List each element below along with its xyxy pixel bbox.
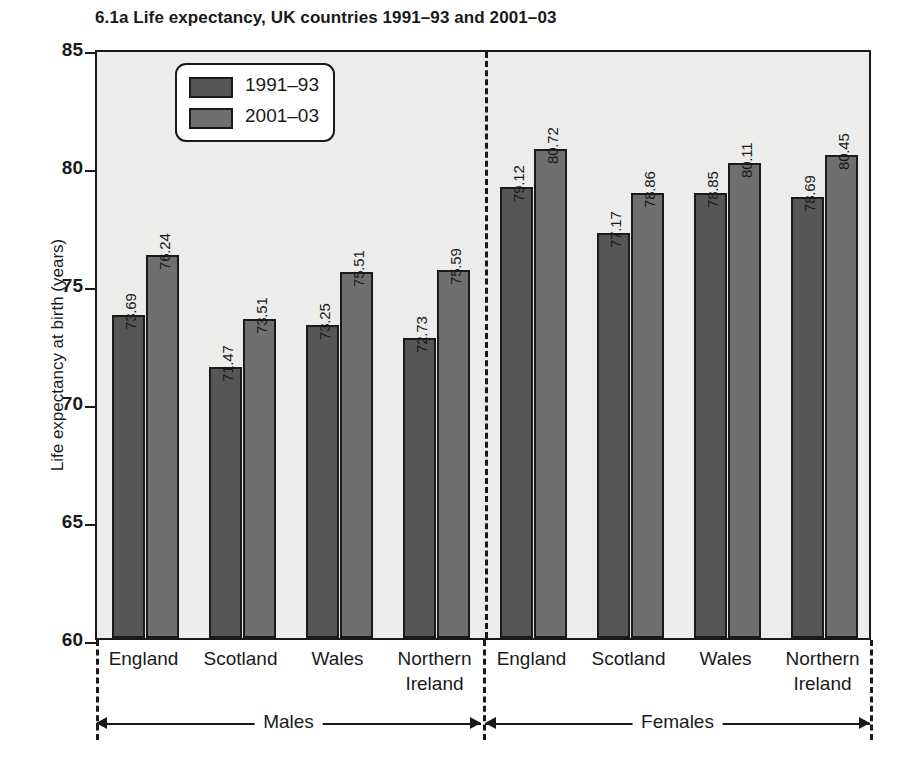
y-axis-title: Life expectancy at birth (years) <box>48 145 68 565</box>
bar-value-label: 80.11 <box>738 143 755 178</box>
legend-label: 2001–03 <box>245 105 319 127</box>
category-label-line: Ireland <box>743 671 902 696</box>
arrow-head-left-icon <box>96 717 107 729</box>
bar-value-label: 71.47 <box>219 346 236 383</box>
bar-value-label: 78.69 <box>801 175 818 212</box>
bar <box>791 197 824 638</box>
y-axis-tick-label: 85 <box>23 39 83 61</box>
bar <box>631 193 664 638</box>
y-axis-tick <box>85 52 97 54</box>
category-label-line: Ireland <box>355 671 515 696</box>
bar <box>146 255 179 638</box>
bar-value-label: 73.69 <box>122 293 139 330</box>
bar-value-label: 79.12 <box>510 165 527 202</box>
bar <box>112 315 145 638</box>
legend-color-swatch <box>189 108 233 129</box>
group-span-arrow: Females <box>485 714 870 734</box>
category-label-line: Northern <box>743 646 902 671</box>
bar-value-label: 78.85 <box>704 172 721 209</box>
y-axis-tick-label: 75 <box>23 275 83 297</box>
y-axis-tick <box>85 524 97 526</box>
y-axis-tick <box>85 406 97 408</box>
legend-label: 1991–93 <box>245 74 319 96</box>
bar <box>597 233 630 638</box>
bar-value-label: 80.45 <box>835 134 852 171</box>
group-divider-line <box>485 52 488 638</box>
y-axis-tick-label: 65 <box>23 511 83 533</box>
bar-value-label: 73.51 <box>253 298 270 335</box>
bar-value-label: 75.51 <box>350 250 367 287</box>
chart-figure: 6.1a Life expectancy, UK countries 1991–… <box>0 0 902 779</box>
bar <box>534 149 567 638</box>
bar-value-label: 76.24 <box>156 233 173 270</box>
arrow-head-left-icon <box>485 717 496 729</box>
bar <box>500 187 533 638</box>
bar <box>403 338 436 638</box>
y-axis-tick <box>85 170 97 172</box>
bar <box>694 193 727 638</box>
legend-color-swatch <box>189 77 233 98</box>
bar <box>825 155 858 638</box>
chart-legend: 1991–932001–03 <box>175 63 335 142</box>
bar-value-label: 77.17 <box>607 211 624 248</box>
x-axis-category-label: NorthernIreland <box>743 646 902 696</box>
bar <box>209 367 242 638</box>
group-label: Females <box>632 711 723 733</box>
bar-value-label: 78.86 <box>641 171 658 208</box>
arrow-head-right-icon <box>859 717 870 729</box>
y-axis-tick-label: 70 <box>23 393 83 415</box>
bar-value-label: 73.25 <box>316 304 333 341</box>
bar-value-label: 72.73 <box>413 316 430 353</box>
bar <box>437 270 470 638</box>
group-label: Males <box>254 711 323 733</box>
arrow-head-right-icon <box>470 717 481 729</box>
group-span-arrow: Males <box>96 714 481 734</box>
bar-value-label: 75.59 <box>447 249 464 286</box>
y-axis-tick-label: 80 <box>23 157 83 179</box>
bar <box>306 325 339 638</box>
bar <box>340 272 373 638</box>
chart-title: 6.1a Life expectancy, UK countries 1991–… <box>95 8 557 28</box>
y-axis-tick <box>85 288 97 290</box>
bar <box>728 163 761 638</box>
bar <box>243 319 276 638</box>
group-guide-dashed-line <box>870 640 873 740</box>
bar-value-label: 80.72 <box>544 127 561 164</box>
